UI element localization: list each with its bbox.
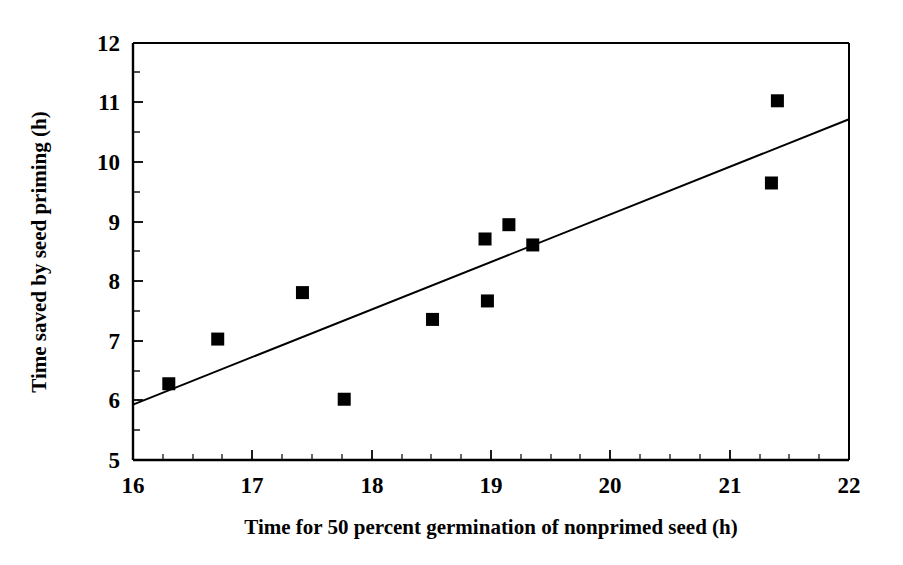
x-tick-label: 20 <box>599 473 622 498</box>
y-tick-label: 7 <box>109 329 121 354</box>
y-tick-label: 5 <box>109 448 121 473</box>
y-tick-label: 9 <box>109 210 121 235</box>
x-tick-label: 16 <box>122 473 145 498</box>
scatter-plot-figure: 12 11 10 9 8 7 6 5 16 17 18 19 20 21 22 … <box>0 0 903 565</box>
x-tick-label: 22 <box>838 473 861 498</box>
y-tick-label: 12 <box>97 31 120 56</box>
data-point-marker <box>338 393 351 406</box>
data-point-marker <box>162 377 175 390</box>
y-tick-label: 8 <box>109 269 121 294</box>
data-point-marker <box>479 232 492 245</box>
data-point-marker <box>526 238 539 251</box>
x-tick-label: 18 <box>361 473 384 498</box>
y-tick-label: 11 <box>98 90 120 115</box>
x-axis-title: Time for 50 percent germination of nonpr… <box>244 515 737 539</box>
y-tick-label: 10 <box>97 150 120 175</box>
data-point-marker <box>426 313 439 326</box>
data-point-marker <box>296 286 309 299</box>
data-point-marker <box>502 218 515 231</box>
x-tick-label: 19 <box>480 473 503 498</box>
data-point-marker <box>211 333 224 346</box>
y-axis-title: Time saved by seed priming (h) <box>27 111 51 392</box>
y-tick-label: 6 <box>109 388 121 413</box>
x-tick-label: 17 <box>241 473 264 498</box>
data-point-marker <box>771 94 784 107</box>
data-point-marker <box>765 176 778 189</box>
x-tick-label: 21 <box>719 473 742 498</box>
data-point-marker <box>481 294 494 307</box>
